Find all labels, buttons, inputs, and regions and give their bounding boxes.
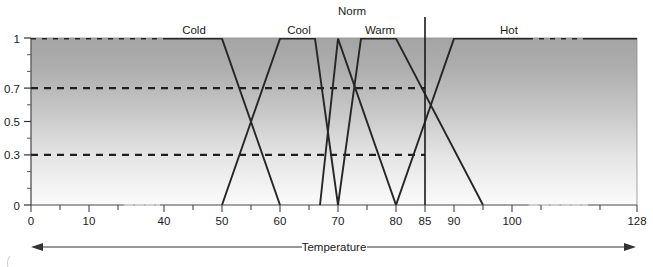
x-tick-label-85: 85 <box>419 215 432 227</box>
arrow-head-left <box>31 243 43 251</box>
x-tick-label-80: 80 <box>390 215 403 227</box>
set-label-hot: Hot <box>500 24 519 36</box>
x-tick-label-70: 70 <box>332 215 345 227</box>
x-axis-ticks <box>31 205 637 212</box>
y-axis-major-ticks <box>24 38 31 205</box>
y-tick-label-1: 1 <box>14 33 20 45</box>
set-label-norm: Norm <box>338 5 366 17</box>
chart-figure: 1 0.7 0.5 0.3 0 <box>0 0 653 267</box>
y-tick-label-0: 0 <box>14 200 20 212</box>
x-axis-title: Temperature <box>302 241 367 253</box>
x-tick-label-128: 128 <box>627 215 646 227</box>
set-label-cold: Cold <box>182 24 206 36</box>
x-tick-label-60: 60 <box>274 215 287 227</box>
y-tick-label-0.5: 0.5 <box>4 116 20 128</box>
x-tick-label-0: 0 <box>28 215 34 227</box>
x-tick-label-50: 50 <box>216 215 229 227</box>
y-tick-label-0.3: 0.3 <box>4 149 20 161</box>
x-tick-label-40: 40 <box>158 215 171 227</box>
arrow-head-right <box>624 243 636 251</box>
y-tick-label-0.7: 0.7 <box>4 83 20 95</box>
set-label-cool: Cool <box>287 24 311 36</box>
x-tick-label-10: 10 <box>83 215 96 227</box>
membership-function-chart: 1 0.7 0.5 0.3 0 <box>0 0 653 267</box>
scan-artifact <box>7 256 10 267</box>
x-tick-label-90: 90 <box>448 215 461 227</box>
x-tick-label-100: 100 <box>502 215 521 227</box>
set-label-warm: Warm <box>365 24 395 36</box>
